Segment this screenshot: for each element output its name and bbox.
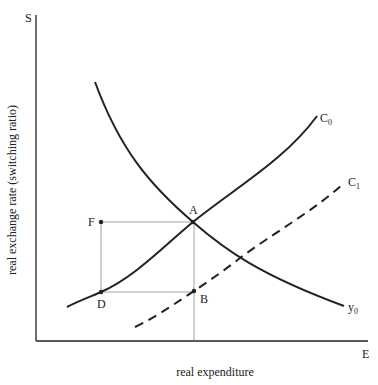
curve-c0-label: C0: [320, 111, 332, 127]
point-b: [192, 289, 196, 293]
point-f-label: F: [88, 215, 95, 229]
curve-y0-label: y0: [348, 300, 358, 316]
point-a: [191, 220, 195, 224]
curve-c1-label: C1: [348, 175, 360, 191]
y-axis-symbol: S: [25, 11, 32, 25]
point-d: [99, 290, 103, 294]
curve-c1: [135, 183, 344, 327]
x-axis-symbol: E: [362, 347, 369, 361]
x-axis-title: real expenditure: [176, 365, 254, 379]
y-axis-title: real exchange rate (switching ratio): [5, 105, 19, 275]
point-a-label: A: [189, 203, 198, 217]
point-d-label: D: [97, 297, 106, 311]
point-b-label: B: [200, 292, 208, 306]
diagram-canvas: S E real expenditure real exchange rate …: [0, 0, 378, 385]
point-f: [99, 220, 103, 224]
